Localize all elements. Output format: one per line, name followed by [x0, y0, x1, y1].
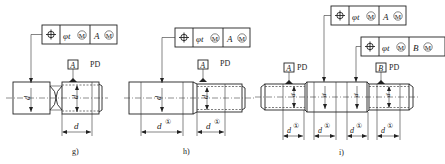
caption-h: h)	[183, 147, 190, 156]
dim-length-d1: d	[350, 126, 355, 135]
feature-control-frame-i-b: φt M B M	[361, 37, 445, 56]
modifier-m: M	[395, 13, 402, 21]
figure-i: φt M A M φt M B M A PD B PD	[255, 6, 445, 157]
pd-label: PD	[297, 63, 307, 72]
datum-ref-b: B	[413, 43, 419, 53]
dim-d: d	[289, 93, 297, 97]
footnote-1: ①	[214, 118, 220, 126]
footnote-1: ①	[356, 122, 362, 129]
tolerance-phi-t: φt	[63, 31, 71, 41]
pd-label: PD	[389, 63, 399, 72]
dim-length-d: d	[74, 121, 79, 131]
feature-control-frame-i-a: φt M A M	[331, 6, 406, 25]
modifier-m: M	[425, 44, 432, 52]
datum-label-a: A	[285, 64, 291, 73]
pd-label: PD	[90, 60, 100, 69]
dim-d: d	[71, 94, 80, 99]
caption-g: g)	[72, 147, 79, 156]
footnote-1: ①	[293, 122, 299, 129]
technical-drawing: φt M A M A PD d	[0, 0, 445, 164]
dim-d: d	[201, 94, 210, 99]
dim-length-d1: d	[206, 121, 211, 131]
dim-length-d1: d	[381, 126, 386, 135]
footnote-1: ①	[324, 122, 330, 129]
datum-ref-a: A	[93, 31, 100, 41]
datum-label-a: A	[69, 61, 75, 70]
modifier-m: M	[398, 44, 405, 52]
modifier-m: M	[106, 32, 113, 40]
pd-label: PD	[220, 59, 230, 68]
dim-ds: d	[23, 95, 32, 100]
dim-length-d1: d	[318, 126, 323, 135]
caption-i: i)	[339, 148, 344, 157]
footnote-1: ①	[387, 122, 393, 129]
dim-ds: d	[352, 93, 360, 97]
dim-d: d	[384, 93, 392, 97]
dim-length-d1: d	[157, 121, 162, 131]
feature-control-frame-h: φt M A M	[175, 28, 250, 47]
footnote-1: ①	[165, 118, 171, 126]
figure-h: φt M A M A PD d d d	[124, 28, 256, 156]
modifier-m: M	[79, 32, 86, 40]
tolerance-phi-t: φt	[382, 43, 390, 53]
dim-length-d1: d	[287, 126, 292, 135]
feature-control-frame-g: φt M A M	[42, 25, 117, 44]
datum-label-a: A	[199, 61, 205, 70]
tolerance-phi-t: φt	[196, 34, 204, 44]
figure-g: φt M A M A PD d	[6, 25, 117, 156]
modifier-m: M	[212, 35, 219, 43]
datum-ref-a: A	[382, 12, 389, 22]
modifier-m: M	[368, 13, 375, 21]
dim-ds: d	[320, 93, 328, 97]
tolerance-phi-t: φt	[352, 12, 360, 22]
modifier-m: M	[239, 35, 246, 43]
dim-ds: d	[154, 95, 163, 100]
datum-label-b: B	[378, 64, 383, 73]
datum-ref-a: A	[226, 34, 233, 44]
